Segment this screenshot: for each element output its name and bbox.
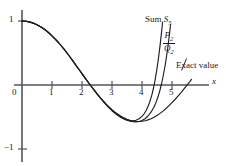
curve-sum-s5	[22, 21, 163, 121]
plot-canvas	[0, 0, 226, 166]
x-tick-label-1: 1	[49, 88, 54, 97]
x-tick-label-5: 5	[169, 88, 174, 97]
y-tick-label-negative-one: −1	[4, 143, 14, 152]
pade-fraction: P2 Q2	[163, 31, 175, 55]
x-axis-label: x	[212, 77, 216, 86]
y-tick-label-positive-one: 1	[9, 15, 14, 24]
sum-prefix-text: Sum	[145, 14, 164, 24]
curve-annotation-sum-s5: Sum S5	[145, 15, 172, 26]
padé-approximation-figure: 0 1 2 3 4 5 1 −1 x Sum S5 P2 Q2 Exact va…	[0, 0, 226, 166]
pade-denominator-subscript: 2	[171, 47, 174, 54]
sum-subscript-text: 5	[168, 19, 171, 26]
x-tick-label-2: 2	[79, 88, 84, 97]
x-tick-label-4: 4	[139, 88, 144, 97]
curve-annotation-pade-p2-q2: P2 Q2	[163, 31, 175, 55]
x-tick-label-0: 0	[12, 88, 17, 97]
pade-denominator: Q2	[163, 44, 175, 56]
x-tick-label-3: 3	[109, 88, 114, 97]
pade-numerator-subscript: 2	[170, 35, 173, 42]
curve-annotation-exact-value: Exact value	[176, 61, 218, 70]
